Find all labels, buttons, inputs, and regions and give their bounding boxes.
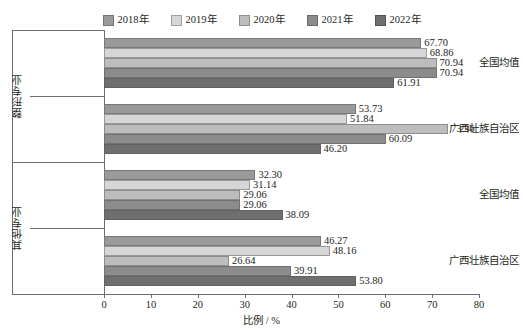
category-axis-top-border	[12, 30, 104, 31]
bar-value-label: 39.91	[294, 266, 318, 276]
x-axis-tick-label: 80	[474, 299, 485, 310]
bar-value-label: 73.36	[451, 124, 475, 134]
x-axis-tick-label: 30	[239, 299, 250, 310]
x-axis-tick-label: 20	[193, 299, 204, 310]
legend-item-2019年[interactable]: 2019年	[171, 15, 217, 26]
legend-label: 2019年	[186, 15, 217, 26]
bar-2022年[interactable]	[104, 78, 394, 88]
group-label: 整形专业	[10, 30, 25, 162]
x-axis-tick	[245, 294, 246, 298]
bar-2022年[interactable]	[104, 210, 283, 220]
category-axis-bottom-border	[12, 294, 104, 295]
bar-2018年[interactable]	[104, 236, 321, 246]
x-axis-tick	[151, 294, 152, 298]
group-separator	[12, 162, 104, 163]
bar-2021年[interactable]	[104, 266, 291, 276]
legend-label: 2020年	[254, 15, 285, 26]
category-label: 全国均值	[479, 189, 519, 201]
bar-value-label: 70.94	[440, 68, 464, 78]
bar-2022年[interactable]	[104, 144, 321, 154]
bar-value-label: 38.09	[286, 210, 310, 220]
legend-swatch-icon	[239, 15, 250, 26]
bar-2020年[interactable]	[104, 256, 229, 266]
category-separator	[30, 228, 104, 229]
bar-2019年[interactable]	[104, 180, 250, 190]
bar-2020年[interactable]	[104, 58, 437, 68]
bar-chart: 2018年2019年2020年2021年2022年 全国均值广西壮族自治区全国均…	[0, 0, 523, 330]
bar-value-label: 29.06	[243, 200, 267, 210]
group-label: 其他专业	[10, 162, 25, 294]
x-axis-tick	[338, 294, 339, 298]
x-axis-tick	[479, 294, 480, 298]
bar-2021年[interactable]	[104, 200, 240, 210]
x-axis-tick-label: 40	[286, 299, 297, 310]
category-label: 广西壮族自治区	[449, 255, 519, 267]
bar-value-label: 61.91	[397, 78, 421, 88]
legend-label: 2018年	[118, 15, 149, 26]
legend-item-2018年[interactable]: 2018年	[103, 15, 149, 26]
legend-label: 2021年	[322, 15, 353, 26]
bar-2018年[interactable]	[104, 170, 255, 180]
x-axis-tick-label: 10	[146, 299, 157, 310]
x-axis-tick	[385, 294, 386, 298]
bar-2018年[interactable]	[104, 38, 421, 48]
bar-value-label: 51.84	[350, 114, 374, 124]
bar-2020年[interactable]	[104, 190, 240, 200]
bar-value-label: 48.16	[333, 246, 357, 256]
bar-2018年[interactable]	[104, 104, 356, 114]
chart-legend: 2018年2019年2020年2021年2022年	[0, 11, 523, 29]
bar-2019年[interactable]	[104, 114, 347, 124]
bar-2022年[interactable]	[104, 276, 356, 286]
bar-2019年[interactable]	[104, 48, 427, 58]
legend-item-2020年[interactable]: 2020年	[239, 15, 285, 26]
x-axis-tick	[104, 294, 105, 298]
bar-value-label: 60.09	[389, 134, 413, 144]
legend-swatch-icon	[103, 15, 114, 26]
legend-swatch-icon	[307, 15, 318, 26]
legend-item-2022年[interactable]: 2022年	[375, 15, 421, 26]
x-axis-tick-label: 60	[380, 299, 391, 310]
x-axis-tick-label: 0	[101, 299, 106, 310]
x-axis-tick-label: 50	[333, 299, 344, 310]
x-axis-tick	[198, 294, 199, 298]
bar-value-label: 53.80	[359, 276, 383, 286]
x-axis-tick-label: 70	[427, 299, 438, 310]
bar-value-label: 46.20	[324, 144, 348, 154]
category-separator	[30, 96, 104, 97]
category-label: 全国均值	[479, 57, 519, 69]
x-axis-title: 比例 / %	[0, 312, 523, 327]
legend-label: 2022年	[390, 15, 421, 26]
legend-item-2021年[interactable]: 2021年	[307, 15, 353, 26]
x-axis-tick	[432, 294, 433, 298]
bar-value-label: 26.64	[232, 256, 256, 266]
bar-2019年[interactable]	[104, 246, 330, 256]
legend-swatch-icon	[171, 15, 182, 26]
bar-2021年[interactable]	[104, 68, 437, 78]
x-axis-tick	[292, 294, 293, 298]
legend-swatch-icon	[375, 15, 386, 26]
